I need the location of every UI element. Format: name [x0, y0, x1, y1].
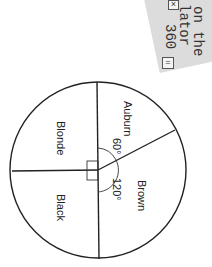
label-angle-120: 120°: [111, 178, 123, 201]
label-brown: Brown: [136, 180, 148, 211]
divider-auburn-brown: [98, 130, 175, 170]
divider-horizontal: [12, 170, 98, 171]
pie-chart: Auburn 60° Brown 120° Blonde Black: [0, 0, 212, 267]
label-blonde: Blonde: [55, 121, 67, 155]
label-auburn: Auburn: [122, 101, 134, 136]
label-black: Black: [55, 194, 67, 221]
label-angle-60: 60°: [111, 138, 123, 155]
